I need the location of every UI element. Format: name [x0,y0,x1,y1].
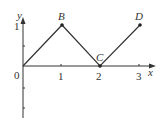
point-b-marker [60,23,64,27]
x-axis-label: x [147,66,153,78]
origin-label: 0 [14,69,20,81]
data-line [23,25,140,66]
x-tick-label-1: 1 [58,70,64,82]
point-b-label: B [58,10,65,22]
x-tick-label-2: 2 [96,70,102,82]
point-c-label: C [96,51,104,63]
y-tick-label-1: 1 [14,20,20,32]
point-c-marker [98,64,102,68]
piecewise-line-chart: 0 1 2 3 x y 1 B C D [0,0,164,132]
chart-canvas: 0 1 2 3 x y 1 B C D [0,0,164,132]
point-d-marker [138,23,142,27]
x-tick-label-3: 3 [136,70,142,82]
point-d-label: D [134,10,143,22]
